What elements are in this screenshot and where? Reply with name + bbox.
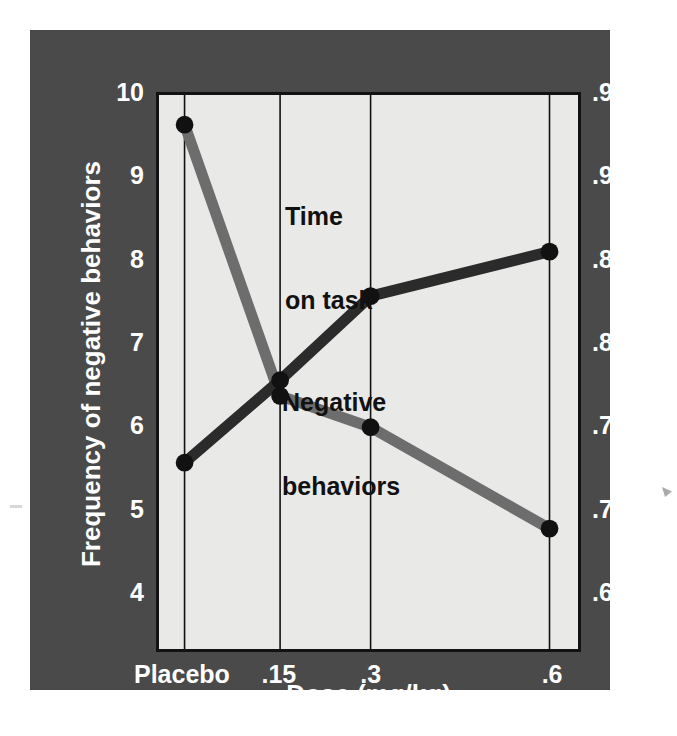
y-axis-left-title: Frequency of negative behaviors [78, 114, 104, 614]
x-axis-title: Dose (mg/kg) [156, 681, 581, 707]
scan-artifact-mark-left [10, 505, 22, 508]
chart-panel: Time on task Negative behaviors 10987654… [30, 30, 610, 690]
x-axis-tick-labels: Placebo.15.3.6 [30, 30, 677, 736]
figure-chart: Time on task Negative behaviors 10987654… [0, 0, 677, 736]
y-axis-right-title: Proportion on task [658, 120, 677, 620]
